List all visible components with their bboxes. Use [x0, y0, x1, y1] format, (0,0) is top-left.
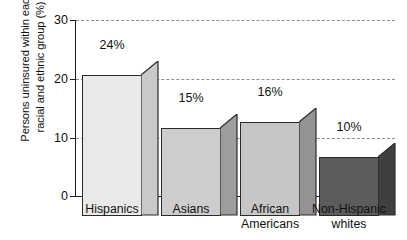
bar-group-hispanics	[82, 40, 159, 216]
bar-front-hispanics	[82, 75, 142, 216]
bar-value-african-americans: 16%	[230, 86, 310, 99]
y-tick-label-10: 10	[28, 132, 68, 145]
y-tick-label-0: 0	[28, 190, 68, 203]
gridline-30	[76, 20, 395, 21]
x-category-label-non-hispanic-whites-line-2: whites	[289, 217, 407, 232]
bar-side-asians	[220, 114, 238, 216]
bar-value-hispanics: 24%	[72, 39, 152, 52]
bar-group-asians	[161, 40, 238, 216]
bar-group-african-americans	[240, 40, 317, 216]
bar-side-hispanics	[141, 61, 159, 216]
bar-value-non-hispanic-whites: 10%	[309, 121, 389, 134]
bar-chart: Persons uninsured within each racial and…	[0, 0, 407, 240]
y-tick-label-30: 30	[28, 14, 68, 27]
x-category-label-non-hispanic-whites: Non-Hispanic whites	[289, 202, 407, 231]
y-tick-label-20: 20	[28, 73, 68, 86]
bar-value-asians: 15%	[151, 92, 231, 105]
x-category-label-non-hispanic-whites-line-1: Non-Hispanic	[289, 202, 407, 217]
